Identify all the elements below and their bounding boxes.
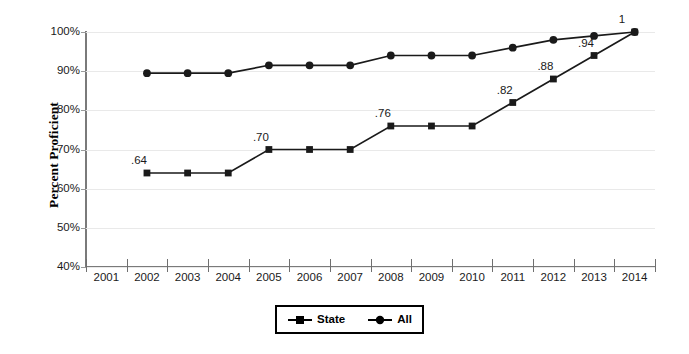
x-axis-tick-label: 2008 <box>371 272 412 284</box>
legend-item-all[interactable]: All <box>367 314 412 326</box>
x-axis-tick-label: 2013 <box>574 272 615 284</box>
chart-legend[interactable]: State All <box>275 305 424 334</box>
x-axis-tick <box>574 259 575 272</box>
x-axis-tick <box>614 259 615 272</box>
x-axis-tick <box>411 259 412 272</box>
x-axis-tick-label: 2010 <box>452 272 493 284</box>
x-axis-tick <box>655 259 656 272</box>
y-axis-tick-labels: 100%90%80%70%60%50%40% <box>0 0 689 354</box>
data-label-state-2008: .76 <box>375 108 391 120</box>
y-axis-tick-label: 90% <box>34 65 80 77</box>
legend-label-all: All <box>397 314 412 326</box>
x-axis-tick <box>249 259 250 272</box>
x-axis-tick-label: 2011 <box>492 272 533 284</box>
x-axis-tick-label: 2002 <box>127 272 168 284</box>
x-axis-tick <box>330 259 331 272</box>
y-axis-tick-label: 100% <box>34 26 80 38</box>
data-label-state-2005: .70 <box>253 132 269 144</box>
x-axis-tick-label: 2009 <box>411 272 452 284</box>
x-axis-tick-label: 2005 <box>249 272 290 284</box>
data-label-state-2012: .88 <box>537 61 553 73</box>
y-axis-tick-label: 50% <box>34 222 80 234</box>
legend-marker-circle-icon <box>367 314 393 326</box>
legend-label-state: State <box>317 314 345 326</box>
x-axis-tick <box>533 259 534 272</box>
y-axis-tick-label: 80% <box>34 104 80 116</box>
x-axis-tick <box>492 259 493 272</box>
y-axis-tick-label: 40% <box>34 261 80 273</box>
x-axis-tick-label: 2014 <box>614 272 655 284</box>
legend-item-state[interactable]: State <box>287 314 345 326</box>
x-axis-tick <box>208 259 209 272</box>
data-label-state-2013: .94 <box>578 38 594 50</box>
data-label-state-2002: .64 <box>131 155 147 167</box>
x-axis-tick <box>127 259 128 272</box>
chart-container: Percent Proficient 100%90%80%70%60%50%40… <box>0 0 689 354</box>
x-axis-tick-label: 2001 <box>86 272 127 284</box>
legend-marker-square-icon <box>287 314 313 326</box>
x-axis-tick <box>371 259 372 272</box>
x-axis-tick-label: 2006 <box>289 272 330 284</box>
x-axis-tick-label: 2003 <box>167 272 208 284</box>
x-axis-tick-label: 2012 <box>533 272 574 284</box>
x-axis-tick <box>167 259 168 272</box>
y-axis-tick-label: 60% <box>34 183 80 195</box>
data-label-state-2011: .82 <box>497 85 513 97</box>
data-label-state-2014: 1 <box>619 14 625 26</box>
y-axis-tick-label: 70% <box>34 144 80 156</box>
x-axis-tick-label: 2007 <box>330 272 371 284</box>
x-axis-tick <box>86 259 87 272</box>
x-axis-tick <box>289 259 290 272</box>
x-axis-tick-label: 2004 <box>208 272 249 284</box>
x-axis-tick <box>452 259 453 272</box>
